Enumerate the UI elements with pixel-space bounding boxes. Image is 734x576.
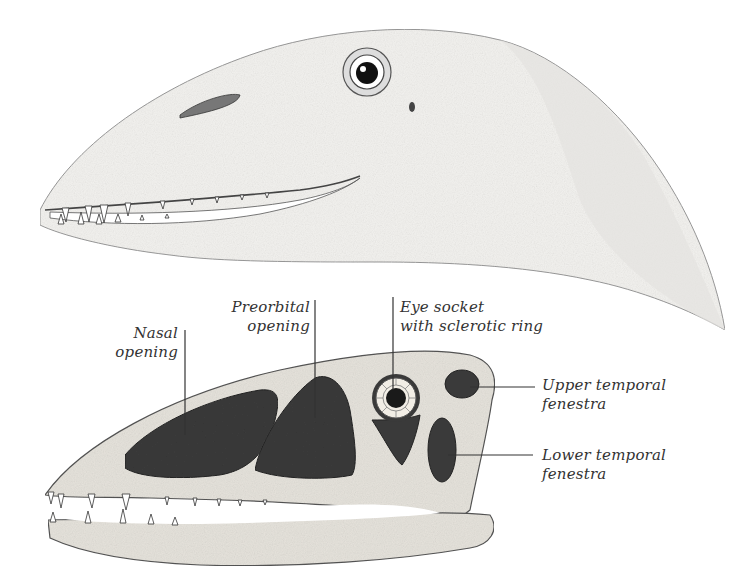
lower-temporal-fenestra-shape — [428, 418, 456, 482]
preorbital-opening-label-line2: opening — [210, 317, 310, 336]
sclerotic-ring — [372, 374, 420, 422]
lower-temporal-label-line2: fenestra — [542, 465, 692, 484]
nasal-opening-label-line2: opening — [100, 343, 178, 362]
diagram-canvas — [0, 0, 734, 576]
eye-socket-label-line1: Eye socket — [400, 298, 580, 317]
lower-temporal-fenestra-label: Lower temporal fenestra — [542, 446, 692, 484]
preorbital-opening-label: Preorbital opening — [210, 298, 310, 336]
nasal-opening-label: Nasal opening — [100, 324, 178, 362]
lower-temporal-label-line1: Lower temporal — [542, 446, 692, 465]
skull-illustration — [45, 351, 495, 566]
upper-temporal-label-line2: fenestra — [542, 395, 692, 414]
ear-opening — [409, 102, 415, 112]
eye-socket-label-line2: with sclerotic ring — [400, 317, 580, 336]
nasal-opening-label-line1: Nasal — [100, 324, 178, 343]
upper-temporal-label-line1: Upper temporal — [542, 376, 692, 395]
dinosaur-head-illustration — [40, 29, 725, 330]
eye — [343, 48, 391, 96]
preorbital-opening-label-line1: Preorbital — [210, 298, 310, 317]
eye-socket-label: Eye socket with sclerotic ring — [400, 298, 580, 336]
upper-temporal-fenestra-label: Upper temporal fenestra — [542, 376, 692, 414]
upper-temporal-fenestra-shape — [445, 370, 479, 398]
